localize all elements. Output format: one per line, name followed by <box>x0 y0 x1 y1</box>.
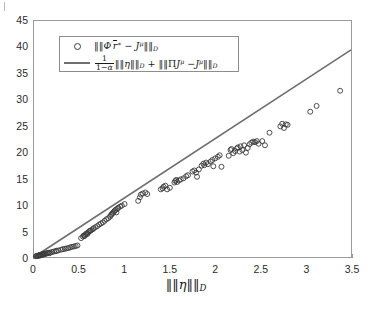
y-tick-label: 5 <box>2 227 28 237</box>
y-tick-label: 40 <box>2 41 28 51</box>
y-tick-label: 35 <box>2 68 28 78</box>
scatter-point <box>243 150 248 155</box>
scatter-point <box>308 109 313 114</box>
legend-entry-scatter: ‖‖Φ′r∗ − Jμ‖‖D <box>60 37 238 55</box>
x-tick-label: 3.5 <box>332 264 372 274</box>
fraction-one-over-one-minus-alpha: 1 1−α <box>95 55 114 72</box>
scatter-point <box>314 103 319 108</box>
x-tick-label: 2 <box>195 264 235 274</box>
line-sample-icon <box>64 62 90 64</box>
y-tick-label: 0 <box>2 253 28 263</box>
bound-line-series <box>34 50 351 257</box>
y-tick-label: 10 <box>2 200 28 210</box>
y-tick-label: 20 <box>2 147 28 157</box>
scatter-point <box>267 130 272 135</box>
bound-line <box>34 50 351 257</box>
circle-marker-icon <box>74 43 81 50</box>
figure-corner-artifact <box>4 2 5 11</box>
legend-label-bound: 1 1−α ‖‖η‖‖D + ‖‖ΠJμ −Jμ‖‖D <box>94 55 218 72</box>
scatter-series <box>33 88 342 258</box>
y-tick-label: 25 <box>2 121 28 131</box>
legend-entry-bound: 1 1−α ‖‖η‖‖D + ‖‖ΠJμ −Jμ‖‖D <box>60 54 238 72</box>
x-tick-label: 0 <box>13 264 53 274</box>
legend-box: ‖‖Φ′r∗ − Jμ‖‖D 1 1−α ‖‖η‖‖D + ‖‖ΠJμ −Jμ‖… <box>59 36 239 72</box>
x-tick-label: 0.5 <box>59 264 99 274</box>
x-tick-label: 3 <box>286 264 326 274</box>
legend-label-scatter: ‖‖Φ′r∗ − Jμ‖‖D <box>94 40 158 52</box>
x-tick-mark <box>352 254 353 258</box>
y-tick-label: 30 <box>2 94 28 104</box>
legend-key-circle <box>60 43 94 50</box>
scatter-point <box>262 143 267 148</box>
x-tick-label: 2.5 <box>241 264 281 274</box>
scatter-point <box>219 164 224 169</box>
figure-canvas: 051015202530354045 00.511.522.533.5 ‖‖Φ′… <box>0 0 372 310</box>
x-axis-label: ‖‖η‖‖D <box>0 277 372 293</box>
scatter-point <box>338 88 343 93</box>
y-tick-label: 45 <box>2 15 28 25</box>
scatter-point <box>211 164 216 169</box>
x-tick-label: 1.5 <box>150 264 190 274</box>
legend-key-line <box>60 62 94 64</box>
x-tick-label: 1 <box>104 264 144 274</box>
y-tick-label: 15 <box>2 174 28 184</box>
